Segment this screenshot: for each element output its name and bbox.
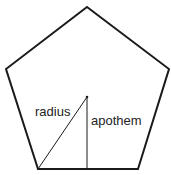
radius-label: radius <box>35 104 71 119</box>
center-point <box>86 96 89 99</box>
pentagon-diagram: radius apothem <box>0 0 171 175</box>
apothem-label: apothem <box>91 113 142 128</box>
